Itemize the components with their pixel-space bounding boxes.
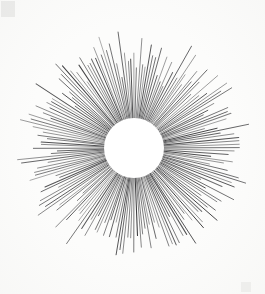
artwork-canvas: Sunburst Starburst Radial Line Drawing (0, 0, 265, 294)
sunburst-figure (0, 0, 265, 294)
sunburst-ray (85, 173, 120, 236)
sunburst-ray (21, 152, 105, 163)
sunburst-ray (40, 162, 109, 201)
center-disc (104, 118, 164, 178)
sunburst-ray (152, 170, 192, 220)
sunburst-ray (159, 110, 207, 135)
sunburst-ray (161, 113, 231, 138)
sunburst-ray (101, 55, 124, 121)
sunburst-ray (135, 68, 137, 120)
